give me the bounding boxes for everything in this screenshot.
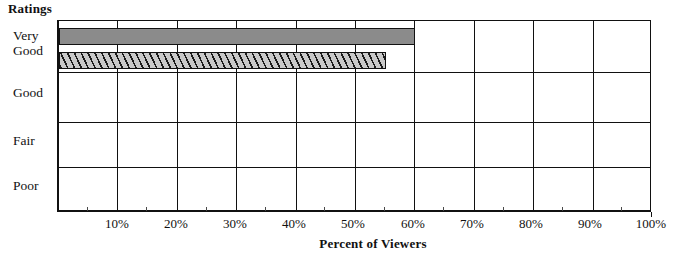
xtick-minor-65 bbox=[443, 207, 444, 211]
xtick-minor-55 bbox=[384, 207, 385, 211]
xtick-minor-85 bbox=[562, 207, 563, 211]
ytick-label-fair: Fair bbox=[13, 133, 35, 148]
ytick-label-very-good-line2: Good bbox=[13, 43, 43, 58]
xtick-label-60: 60% bbox=[401, 216, 425, 232]
xtick-minor-45 bbox=[324, 207, 325, 211]
chart-container: Ratings 10% 20% 30% 40% 50% 60% 70% 80% … bbox=[0, 0, 676, 258]
xtick-minor-75 bbox=[503, 207, 504, 211]
xtick-label-40: 40% bbox=[282, 216, 306, 232]
xtick-minor-35 bbox=[265, 207, 266, 211]
category-divider-fair bbox=[59, 167, 650, 168]
xtick-label-50: 50% bbox=[341, 216, 365, 232]
xtick-minor-15 bbox=[146, 207, 147, 211]
category-divider-good bbox=[59, 122, 650, 123]
bar-very-good-solid bbox=[59, 28, 415, 45]
ytick-label-poor: Poor bbox=[13, 178, 39, 193]
gridline-10 bbox=[117, 21, 118, 210]
xtick-label-80: 80% bbox=[519, 216, 543, 232]
xtick-label-10: 10% bbox=[105, 216, 129, 232]
ytick-label-good: Good bbox=[13, 85, 43, 100]
category-divider-very-good bbox=[59, 72, 650, 73]
gridline-30 bbox=[236, 21, 237, 210]
xtick-label-30: 30% bbox=[223, 216, 247, 232]
ytick-label-very-good-line1: Very bbox=[13, 28, 43, 43]
page-title: Ratings bbox=[8, 1, 52, 17]
xtick-minor-5 bbox=[87, 207, 88, 211]
gridline-60 bbox=[414, 21, 415, 210]
x-axis-title: Percent of Viewers bbox=[0, 236, 676, 252]
gridline-70 bbox=[474, 21, 475, 210]
bar-very-good-hatched bbox=[59, 52, 386, 69]
xtick-minor-95 bbox=[621, 207, 622, 211]
gridline-90 bbox=[593, 21, 594, 210]
xtick-label-20: 20% bbox=[164, 216, 188, 232]
gridline-80 bbox=[533, 21, 534, 210]
gridline-40 bbox=[296, 21, 297, 210]
xtick-label-90: 90% bbox=[578, 216, 602, 232]
ytick-label-very-good: Very Good bbox=[13, 28, 43, 58]
gridline-20 bbox=[177, 21, 178, 210]
xtick-label-70: 70% bbox=[460, 216, 484, 232]
gridline-50 bbox=[355, 21, 356, 210]
xtick-minor-25 bbox=[206, 207, 207, 211]
x-axis-title-text: Percent of Viewers bbox=[319, 236, 426, 251]
plot-area bbox=[57, 20, 651, 212]
xtick-label-100: 100% bbox=[636, 216, 666, 232]
